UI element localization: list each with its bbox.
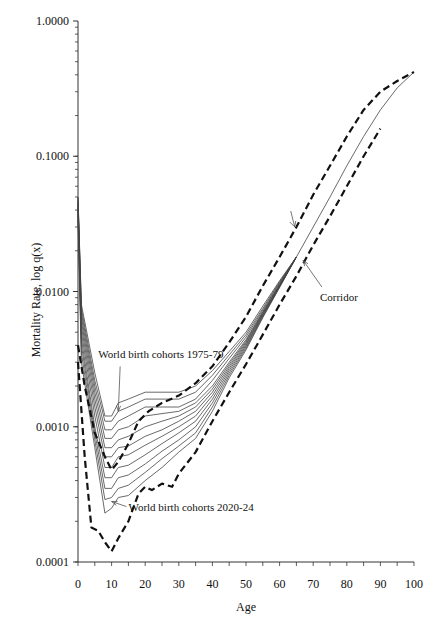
arrowhead-icon: [290, 221, 296, 227]
y-tick-label: 0.0001: [36, 555, 69, 569]
x-tick-label: 30: [173, 577, 185, 591]
y-tick-label: 0.1000: [36, 149, 69, 163]
arrow-icon: [303, 260, 322, 287]
cohort-line: [78, 210, 296, 478]
mortality-chart: 1.00000.10000.01000.00100.00010102030405…: [0, 0, 437, 623]
corridor-line: [78, 72, 414, 470]
annotation-corridor: Corridor: [320, 291, 358, 303]
corridor-line: [78, 129, 380, 552]
annotation-2020-24: World birth cohorts 2020-24: [128, 501, 254, 513]
x-axis-title: Age: [236, 600, 256, 614]
cohort-line: [78, 209, 296, 468]
x-tick-label: 100: [405, 577, 423, 591]
annotation-1975-79: World birth cohorts 1975-79: [98, 348, 224, 360]
x-tick-label: 40: [206, 577, 218, 591]
cohort-line: [78, 220, 296, 513]
x-tick-label: 10: [106, 577, 118, 591]
x-tick-label: 0: [75, 577, 81, 591]
x-tick-label: 80: [341, 577, 353, 591]
x-tick-label: 50: [240, 577, 252, 591]
y-tick-label: 1.0000: [36, 14, 69, 28]
series-group: [78, 72, 414, 551]
cohort-line: [78, 203, 296, 448]
cohort-line: [78, 206, 296, 457]
arrow-icon: [118, 366, 120, 411]
y-tick-label: 0.0010: [36, 420, 69, 434]
x-tick-label: 70: [307, 577, 319, 591]
x-tick-label: 90: [374, 577, 386, 591]
annotations: World birth cohorts 1975-79World birth c…: [98, 211, 358, 513]
x-tick-label: 20: [139, 577, 151, 591]
x-tick-label: 60: [274, 577, 286, 591]
y-axis-title: Mortality Rate, log q(x): [29, 243, 43, 358]
